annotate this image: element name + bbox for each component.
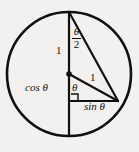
half-angle-numerator: θ <box>73 26 80 37</box>
sine-label: sin θ <box>84 101 105 112</box>
cosine-label: cos θ <box>25 82 48 93</box>
slant-radius-length-label: 1 <box>90 72 96 83</box>
figure-canvas <box>0 0 139 152</box>
trigonometry-circle-figure: θ 2 1 1 cos θ θ sin θ <box>0 0 139 152</box>
vertical-radius-length-label: 1 <box>56 45 62 56</box>
right-angle-marker-icon <box>71 94 78 101</box>
center-angle-label: θ <box>72 82 77 93</box>
center-point-dot <box>66 71 72 77</box>
half-angle-label: θ 2 <box>72 26 81 50</box>
half-angle-denominator: 2 <box>73 39 81 50</box>
